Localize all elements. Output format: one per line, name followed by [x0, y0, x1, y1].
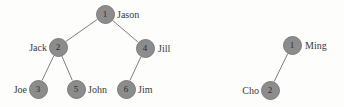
tree-node-label-R2: Cho	[242, 85, 259, 96]
tree-node-label-L3: Joe	[14, 84, 27, 95]
tree-edge-L4-L6	[130, 57, 141, 81]
tree-edge-L1-L2	[66, 19, 97, 41]
tree-diagram-figure: 1Jason2Jack4Jill3Joe5John6Jim1Ming2Cho	[0, 0, 344, 107]
tree-edge-L2-L5	[62, 56, 73, 81]
tree-node-label-L4: Jill	[158, 43, 170, 54]
tree-node-label-L1: Jason	[117, 9, 139, 20]
tree-node-label-L6: Jim	[138, 84, 152, 95]
tree-node-R2[interactable]: 2	[261, 81, 280, 100]
tree-node-L5[interactable]: 5	[67, 80, 86, 99]
tree-node-L1[interactable]: 1	[96, 5, 115, 24]
tree-node-L6[interactable]: 6	[117, 80, 136, 99]
tree-node-L3[interactable]: 3	[29, 80, 48, 99]
tree-node-label-L5: John	[88, 84, 107, 95]
tree-edge-R1-R2	[274, 54, 288, 82]
tree-node-L4[interactable]: 4	[136, 39, 155, 58]
tree-edge-L2-L3	[42, 56, 54, 81]
tree-node-label-R1: Ming	[305, 40, 327, 51]
tree-edge-L1-L4	[112, 20, 138, 42]
tree-node-label-L2: Jack	[29, 42, 47, 53]
tree-node-R1[interactable]: 1	[283, 36, 302, 55]
tree-node-L2[interactable]: 2	[49, 38, 68, 57]
